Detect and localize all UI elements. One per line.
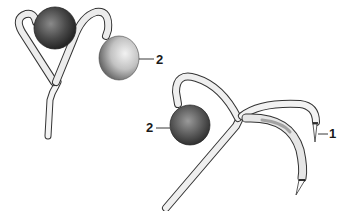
left-spore-dark <box>34 7 76 49</box>
right-spore <box>170 105 210 145</box>
label-2-left: 2 <box>156 53 163 66</box>
illustration <box>0 0 345 211</box>
right-specimen <box>156 77 328 208</box>
left-spore-light <box>99 36 139 80</box>
left-specimen <box>19 7 154 136</box>
label-1: 1 <box>329 127 336 140</box>
hyphal-tip-1 <box>313 124 317 142</box>
label-2-right: 2 <box>146 121 153 134</box>
lower-hypha <box>246 118 303 178</box>
